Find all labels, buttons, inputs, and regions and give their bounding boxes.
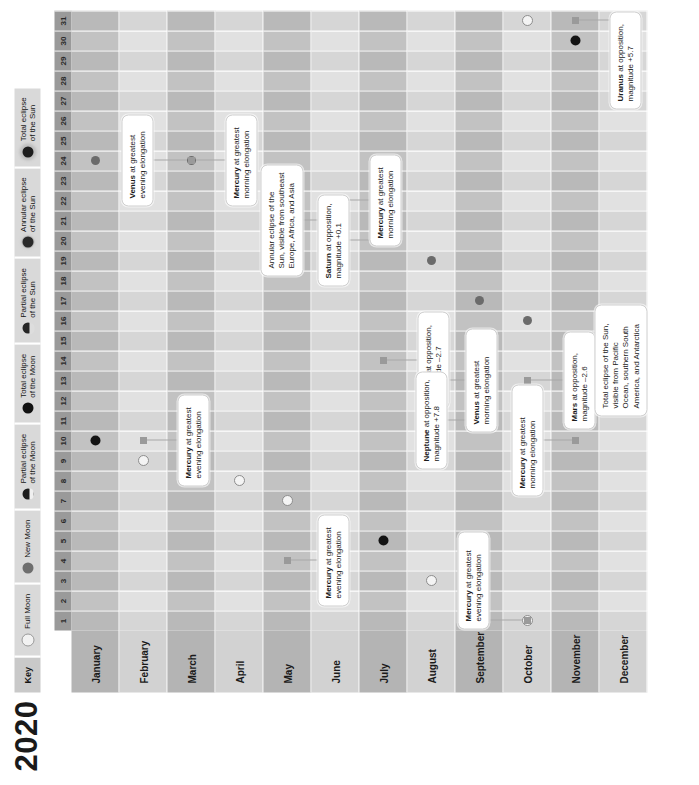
day-cell[interactable] bbox=[503, 250, 551, 270]
day-cell[interactable] bbox=[119, 510, 167, 530]
event-callout[interactable]: Venus at greatestmorning elongation bbox=[465, 328, 497, 432]
day-cell[interactable] bbox=[215, 370, 263, 390]
day-cell[interactable] bbox=[215, 70, 263, 90]
marker-full-moon[interactable] bbox=[282, 495, 293, 506]
day-cell[interactable] bbox=[71, 110, 119, 130]
day-cell[interactable] bbox=[407, 90, 455, 110]
marker-full-moon[interactable] bbox=[234, 475, 245, 486]
marker-partial-lunar-eclipse[interactable] bbox=[90, 435, 100, 445]
day-cell[interactable] bbox=[167, 310, 215, 330]
day-cell[interactable] bbox=[263, 10, 311, 30]
day-cell[interactable] bbox=[311, 170, 359, 190]
day-cell[interactable] bbox=[455, 50, 503, 70]
day-cell[interactable] bbox=[359, 410, 407, 430]
day-cell[interactable] bbox=[503, 210, 551, 230]
day-cell[interactable] bbox=[551, 190, 599, 210]
day-cell[interactable] bbox=[503, 270, 551, 290]
day-cell[interactable] bbox=[407, 50, 455, 70]
day-cell[interactable] bbox=[407, 10, 455, 30]
day-cell[interactable] bbox=[215, 30, 263, 50]
day-cell[interactable] bbox=[503, 130, 551, 150]
day-cell[interactable] bbox=[359, 70, 407, 90]
day-cell[interactable] bbox=[359, 510, 407, 530]
day-cell[interactable] bbox=[71, 450, 119, 470]
day-cell[interactable] bbox=[119, 30, 167, 50]
day-cell[interactable] bbox=[167, 550, 215, 570]
day-cell[interactable] bbox=[119, 210, 167, 230]
day-cell[interactable] bbox=[263, 290, 311, 310]
event-callout[interactable]: Mercury at greatestmorning elongation bbox=[225, 114, 257, 206]
day-cell[interactable] bbox=[503, 350, 551, 370]
day-cell[interactable] bbox=[359, 330, 407, 350]
day-cell[interactable] bbox=[167, 10, 215, 30]
day-cell[interactable] bbox=[263, 50, 311, 70]
event-callout[interactable]: Mercury at greatestevening elongation bbox=[177, 394, 209, 486]
day-cell[interactable] bbox=[215, 430, 263, 450]
day-cell[interactable] bbox=[311, 470, 359, 490]
day-cell[interactable] bbox=[503, 530, 551, 550]
day-cell[interactable] bbox=[167, 50, 215, 70]
day-cell[interactable] bbox=[71, 70, 119, 90]
day-cell[interactable] bbox=[167, 590, 215, 610]
day-cell[interactable] bbox=[407, 550, 455, 570]
day-cell[interactable] bbox=[599, 130, 647, 150]
day-cell[interactable] bbox=[119, 50, 167, 70]
event-anchor[interactable] bbox=[524, 617, 531, 624]
day-cell[interactable] bbox=[359, 450, 407, 470]
day-cell[interactable] bbox=[599, 190, 647, 210]
day-cell[interactable] bbox=[119, 330, 167, 350]
day-cell[interactable] bbox=[71, 130, 119, 150]
day-cell[interactable] bbox=[359, 370, 407, 390]
day-cell[interactable] bbox=[119, 370, 167, 390]
day-cell[interactable] bbox=[311, 10, 359, 30]
day-cell[interactable] bbox=[551, 470, 599, 490]
day-cell[interactable] bbox=[551, 510, 599, 530]
day-cell[interactable] bbox=[503, 50, 551, 70]
day-cell[interactable] bbox=[311, 410, 359, 430]
day-cell[interactable] bbox=[263, 590, 311, 610]
day-cell[interactable] bbox=[551, 270, 599, 290]
day-cell[interactable] bbox=[167, 210, 215, 230]
event-anchor[interactable] bbox=[572, 437, 579, 444]
day-cell[interactable] bbox=[167, 190, 215, 210]
day-cell[interactable] bbox=[551, 310, 599, 330]
day-cell[interactable] bbox=[167, 350, 215, 370]
day-cell[interactable] bbox=[71, 510, 119, 530]
day-cell[interactable] bbox=[599, 530, 647, 550]
event-callout[interactable]: Mars at opposition,magnitude –2.6 bbox=[563, 331, 595, 429]
day-cell[interactable] bbox=[359, 290, 407, 310]
day-cell[interactable] bbox=[311, 490, 359, 510]
day-cell[interactable] bbox=[599, 250, 647, 270]
day-cell[interactable] bbox=[455, 130, 503, 150]
day-cell[interactable] bbox=[263, 570, 311, 590]
day-cell[interactable] bbox=[455, 450, 503, 470]
day-cell[interactable] bbox=[167, 570, 215, 590]
marker-partial-lunar-eclipse[interactable] bbox=[570, 35, 580, 45]
day-cell[interactable] bbox=[599, 510, 647, 530]
day-cell[interactable] bbox=[167, 510, 215, 530]
event-callout[interactable]: Neptune at opposition,magnitude +7.8 bbox=[415, 371, 447, 469]
day-cell[interactable] bbox=[311, 350, 359, 370]
day-cell[interactable] bbox=[407, 150, 455, 170]
day-cell[interactable] bbox=[455, 90, 503, 110]
day-cell[interactable] bbox=[263, 110, 311, 130]
day-cell[interactable] bbox=[359, 270, 407, 290]
day-cell[interactable] bbox=[167, 490, 215, 510]
day-cell[interactable] bbox=[71, 250, 119, 270]
day-cell[interactable] bbox=[71, 270, 119, 290]
day-cell[interactable] bbox=[263, 430, 311, 450]
day-cell[interactable] bbox=[167, 170, 215, 190]
day-cell[interactable] bbox=[71, 390, 119, 410]
day-cell[interactable] bbox=[503, 330, 551, 350]
marker-partial-lunar-eclipse[interactable] bbox=[378, 535, 388, 545]
day-cell[interactable] bbox=[455, 510, 503, 530]
day-cell[interactable] bbox=[311, 370, 359, 390]
day-cell[interactable] bbox=[455, 30, 503, 50]
day-cell[interactable] bbox=[551, 250, 599, 270]
day-cell[interactable] bbox=[215, 290, 263, 310]
day-cell[interactable] bbox=[551, 550, 599, 570]
day-cell[interactable] bbox=[407, 110, 455, 130]
day-cell[interactable] bbox=[215, 50, 263, 70]
day-cell[interactable] bbox=[215, 550, 263, 570]
day-cell[interactable] bbox=[503, 70, 551, 90]
